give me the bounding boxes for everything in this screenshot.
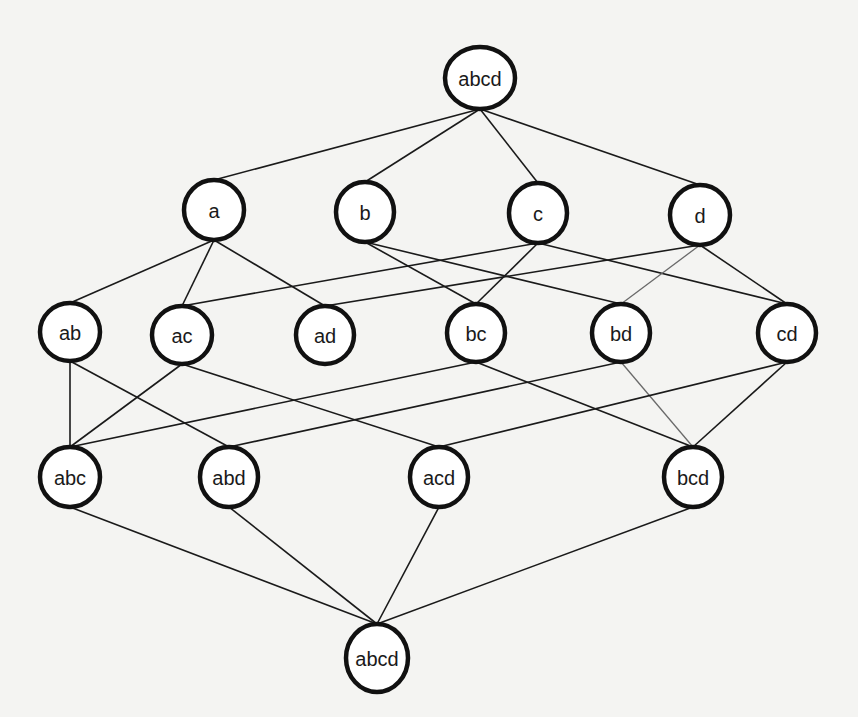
edge-cd-bcd — [693, 362, 787, 447]
edge-a-ad — [214, 240, 325, 306]
diagram-canvas: abcdabcdabacadbcbdcdabcabdacdbcdabcd — [0, 0, 858, 717]
node-label: abc — [54, 467, 86, 489]
node-label: abd — [212, 467, 245, 489]
node-label: ab — [59, 322, 81, 344]
edge-d-cd — [700, 245, 787, 304]
node-label: d — [694, 205, 705, 227]
node-b: b — [336, 182, 394, 242]
node-bottom: abcd — [346, 624, 408, 692]
node-top: abcd — [445, 47, 515, 109]
edges-layer — [70, 109, 787, 624]
node-label: ac — [171, 325, 192, 347]
node-ad: ad — [296, 306, 354, 364]
edge-b-bc — [365, 242, 476, 304]
node-c: c — [509, 183, 567, 243]
nodes-layer: abcdabcdabacadbcbdcdabcabdacdbcdabcd — [40, 47, 816, 692]
node-label: ad — [314, 325, 336, 347]
node-ac: ac — [152, 306, 212, 364]
node-bcd: bcd — [664, 447, 722, 507]
edge-bc-abc — [70, 362, 476, 447]
edge-d-bd — [621, 245, 700, 304]
node-ab: ab — [40, 303, 100, 361]
edge-acd-bottom — [377, 507, 439, 624]
node-label: acd — [423, 467, 455, 489]
node-abc: abc — [40, 447, 100, 507]
node-acd: acd — [410, 447, 468, 507]
node-label: abcd — [458, 68, 501, 90]
node-label: bd — [610, 323, 632, 345]
edge-bc-bcd — [476, 362, 693, 447]
node-label: b — [359, 202, 370, 224]
edge-d-ad — [325, 245, 700, 306]
edge-cd-acd — [439, 362, 787, 447]
edge-top-d — [480, 109, 700, 185]
lattice-diagram: abcdabcdabacadbcbdcdabcabdacdbcdabcd — [0, 0, 858, 717]
node-label: cd — [776, 323, 797, 345]
node-bc: bc — [447, 304, 505, 362]
node-cd: cd — [758, 304, 816, 362]
edge-bd-bcd — [621, 362, 693, 447]
edge-a-ac — [182, 240, 214, 306]
node-a: a — [184, 180, 244, 240]
node-bd: bd — [592, 304, 650, 362]
node-label: a — [208, 200, 220, 222]
edge-top-c — [480, 109, 538, 183]
edge-abd-bottom — [229, 507, 377, 624]
edge-ab-abd — [70, 361, 229, 447]
node-label: bc — [465, 323, 486, 345]
node-label: abcd — [355, 648, 398, 670]
node-d: d — [670, 185, 730, 245]
edge-top-b — [365, 109, 480, 182]
node-label: c — [533, 203, 543, 225]
node-abd: abd — [200, 447, 258, 507]
node-label: bcd — [677, 467, 709, 489]
edge-a-ab — [70, 240, 214, 303]
edge-ac-acd — [182, 364, 439, 447]
edge-bcd-bottom — [377, 507, 693, 624]
edge-top-a — [214, 109, 480, 180]
edge-bd-abd — [229, 362, 621, 447]
edge-abc-bottom — [70, 507, 377, 624]
